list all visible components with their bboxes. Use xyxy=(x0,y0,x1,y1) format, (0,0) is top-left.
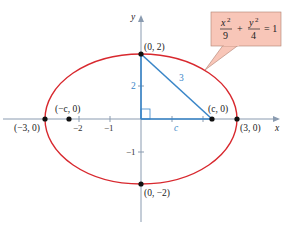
right-angle-marker xyxy=(141,109,150,119)
eq-y-num: y xyxy=(248,17,254,28)
label-base: c xyxy=(174,123,179,133)
y-tick-minus-1: −1 xyxy=(126,147,136,157)
eq-x-num: x xyxy=(220,17,226,28)
label-left-vertex: (−3, 0) xyxy=(14,123,40,134)
eq-equals: = 1 xyxy=(264,23,277,34)
label-bottom: (0, −2) xyxy=(144,188,170,199)
y-axis-label: y xyxy=(130,12,136,22)
eq-y-den: 4 xyxy=(251,30,256,41)
label-right-vertex: (3, 0) xyxy=(240,123,261,134)
eq-y-exp: 2 xyxy=(255,16,259,24)
right-triangle xyxy=(141,54,212,119)
label-top: (0, 2) xyxy=(144,42,165,53)
x-tick-minus-1: −1 xyxy=(104,123,114,133)
label-hypotenuse: 3 xyxy=(179,73,184,83)
eq-x-exp: 2 xyxy=(227,16,231,24)
x-tick-minus-2: −2 xyxy=(73,123,83,133)
ellipse-diagram: x 2 9 + y 2 4 = 1 y x (0, 2) (0, −2) (−3… xyxy=(0,0,293,225)
label-right-focus: (c, 0) xyxy=(208,104,228,115)
eq-plus: + xyxy=(237,23,243,34)
label-left-focus: (−c, 0) xyxy=(55,104,80,115)
label-height: 2 xyxy=(131,81,136,91)
equation-callout: x 2 9 + y 2 4 = 1 xyxy=(205,12,281,70)
eq-x-den: 9 xyxy=(223,30,228,41)
x-axis-label: x xyxy=(274,123,280,133)
